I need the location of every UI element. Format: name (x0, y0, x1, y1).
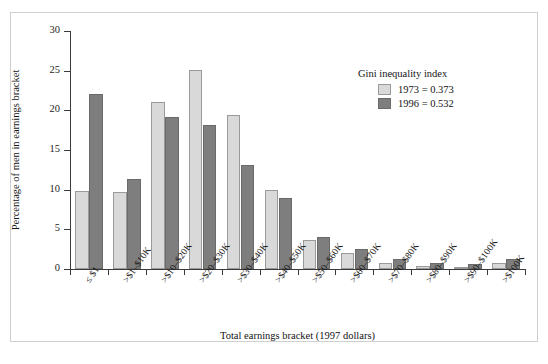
x-tick-6 (298, 269, 299, 275)
bar-1973-11 (492, 263, 506, 269)
x-tick-4 (222, 269, 223, 275)
x-tick-11 (487, 269, 488, 275)
plot-area: Percentage of men in earnings bracket 05… (0, 0, 548, 364)
chart-screenshot: Percentage of men in earnings bracket 05… (0, 0, 548, 364)
legend-item-1973: 1973 = 0.373 (378, 84, 512, 95)
y-tick-label-25: 25 (34, 65, 60, 75)
bar-1973-3 (189, 70, 203, 269)
legend-item-1996: 1996 = 0.532 (378, 98, 512, 109)
y-tick-label-15: 15 (34, 144, 60, 154)
bar-1973-9 (416, 266, 430, 269)
y-tick-label-20: 20 (34, 104, 60, 114)
y-tick-label-30: 30 (34, 25, 60, 35)
bar-1973-10 (454, 267, 468, 269)
x-tick-1 (108, 269, 109, 275)
x-tick-0 (70, 269, 71, 275)
legend-title: Gini inequality index (358, 68, 512, 79)
y-tick-label-5: 5 (34, 223, 60, 233)
y-tick-label-10: 10 (34, 184, 60, 194)
legend-label-1973: 1973 = 0.373 (398, 84, 454, 95)
x-axis-title: Total earnings bracket (1997 dollars) (70, 330, 525, 341)
x-tick-9 (411, 269, 412, 275)
y-tick-label-0: 0 (34, 263, 60, 273)
x-tick-12 (525, 269, 526, 275)
x-tick-10 (449, 269, 450, 275)
y-axis-title: Percentage of men in earnings bracket (10, 50, 21, 250)
x-tick-3 (184, 269, 185, 275)
x-tick-5 (260, 269, 261, 275)
bar-1973-0 (75, 191, 89, 269)
bar-series-container (70, 31, 525, 269)
chart-legend: Gini inequality index 1973 = 0.373 1996 … (352, 68, 512, 112)
bar-1973-5 (265, 190, 279, 269)
bar-1973-7 (341, 253, 355, 269)
bar-1973-8 (379, 263, 393, 269)
bar-1996-3 (203, 125, 217, 269)
bar-1996-2 (165, 117, 179, 269)
legend-label-1996: 1996 = 0.532 (398, 98, 454, 109)
legend-swatch-1973 (378, 84, 391, 95)
bar-1973-2 (151, 102, 165, 269)
legend-swatch-1996 (378, 98, 391, 109)
bar-1996-0 (89, 94, 103, 269)
bar-1973-1 (113, 192, 127, 269)
x-tick-7 (335, 269, 336, 275)
x-tick-8 (373, 269, 374, 275)
x-tick-2 (146, 269, 147, 275)
